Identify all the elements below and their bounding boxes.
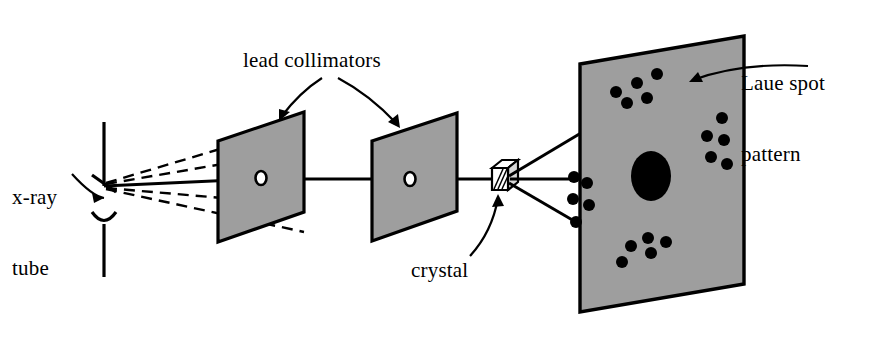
collimator-2-pointer-curve <box>338 78 397 124</box>
laue-spot <box>621 97 633 109</box>
lead-collimator-1 <box>218 112 304 242</box>
laue-spot <box>616 256 628 268</box>
laue-spot <box>660 236 672 248</box>
xray-tube-cup <box>92 212 116 221</box>
xray-tube-label-line2: tube <box>12 257 57 281</box>
crystal-label: crystal <box>411 259 468 283</box>
laue-spot <box>567 193 579 205</box>
crystal-pointer-arrowhead <box>492 194 504 207</box>
laue-spot-pattern-label: Laue spot pattern <box>741 25 825 213</box>
laue-spot <box>642 232 654 244</box>
laue-spot <box>568 171 580 183</box>
laue-spot <box>625 240 637 252</box>
laue-spot <box>705 151 717 163</box>
laue-spot <box>570 216 582 228</box>
laue-pattern-label-line1: Laue spot <box>741 72 825 96</box>
xray-tube-pointer-arrowhead <box>92 193 104 203</box>
xray-tube-label: x-ray tube <box>12 139 57 327</box>
laue-spot <box>581 177 593 189</box>
crystal-pointer <box>470 194 504 256</box>
laue-diffraction-diagram: x-ray tube lead collimators crystal Laue… <box>0 0 879 351</box>
lead-collimators-label: lead collimators <box>243 49 381 73</box>
xray-tube-label-line1: x-ray <box>12 186 57 210</box>
laue-spot <box>631 77 643 89</box>
laue-spot <box>721 158 733 170</box>
laue-spot <box>641 92 653 104</box>
diffracted-ray-upper <box>509 133 581 176</box>
laue-spot <box>583 199 595 211</box>
laue-spot <box>645 247 657 259</box>
collimator-2-aperture <box>405 172 416 186</box>
laue-pattern-label-line2: pattern <box>741 143 825 167</box>
laue-central-spot <box>631 151 671 201</box>
laue-spot <box>716 112 728 124</box>
xray-tube-pointer-curve <box>72 174 104 198</box>
laue-spot <box>610 86 622 98</box>
laue-spot <box>718 134 730 146</box>
lead-collimator-2 <box>372 113 457 241</box>
laue-spot <box>651 68 663 80</box>
collimator-1-aperture <box>256 171 267 185</box>
collimator-1-pointer-curve <box>281 78 322 117</box>
laue-spot <box>701 130 713 142</box>
